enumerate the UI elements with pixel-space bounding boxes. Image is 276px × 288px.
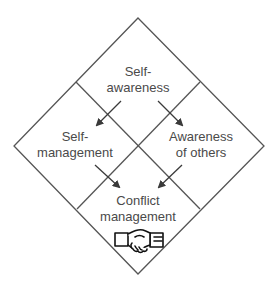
arrow-awareness-of-others-to-conflict <box>159 165 182 187</box>
quadrant-awareness-of-others-line2: of others <box>169 145 233 161</box>
arrow-self-awareness-to-self-management <box>97 101 121 125</box>
diamond-diagram: Self- awareness Self- management Awarene… <box>0 0 276 288</box>
quadrant-self-awareness-line1: Self- <box>107 64 170 80</box>
quadrant-awareness-of-others: Awareness of others <box>169 129 233 161</box>
quadrant-self-awareness: Self- awareness <box>107 64 170 96</box>
quadrant-self-management: Self- management <box>37 129 113 161</box>
handshake-icon <box>115 230 163 253</box>
arrow-self-management-to-conflict <box>95 165 119 187</box>
quadrant-conflict-management: Conflict management <box>100 193 176 225</box>
quadrant-self-management-line1: Self- <box>37 129 113 145</box>
quadrant-self-management-line2: management <box>37 145 113 161</box>
quadrant-conflict-management-line1: Conflict <box>100 193 176 209</box>
quadrant-awareness-of-others-line1: Awareness <box>169 129 233 145</box>
quadrant-self-awareness-line2: awareness <box>107 80 170 96</box>
quadrant-conflict-management-line2: management <box>100 209 176 225</box>
